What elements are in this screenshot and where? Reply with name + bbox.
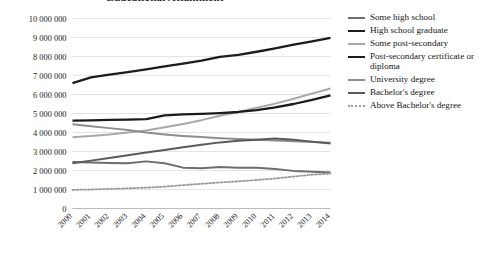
y-tick-label: 1 000 000 [33,186,67,195]
x-tick-label: 2000 [56,212,74,230]
legend-item-label: Some high school [370,12,435,22]
legend-item[interactable]: Bachelor's degree [348,87,490,98]
legend-item-label: Some post-secondary [370,38,448,48]
legend-swatch-icon [348,38,365,49]
legend-item-label: University degree [370,74,435,84]
legend-swatch-icon [348,87,365,98]
x-tick-label: 2001 [74,212,92,230]
series-line [73,174,331,190]
y-tick-label: 6 000 000 [33,91,67,100]
legend-item-label: High school graduate [370,25,448,35]
series-line [73,38,331,83]
y-tick-label: 4 000 000 [33,129,67,138]
x-tick-label: 2007 [185,212,203,230]
chart-container: Educational Attainment 01 000 0002 000 0… [0,0,490,263]
y-tick-label: 8 000 000 [33,53,67,62]
x-tick-label: 2008 [203,212,221,230]
legend-swatch-icon [348,100,365,111]
legend-swatch-icon [348,51,365,62]
legend-item[interactable]: Some post-secondary [348,38,490,49]
legend-item-label: Post-secondary certificate or diploma [370,51,488,72]
x-tick-label: 2002 [93,212,111,230]
series-line [73,139,331,164]
legend-item[interactable]: High school graduate [348,25,490,36]
y-tick-label: 10 000 000 [29,15,67,24]
legend-item[interactable]: Some high school [348,12,490,23]
legend-item-label: Bachelor's degree [370,87,435,97]
legend-item-label: Above Bachelor's degree [370,100,461,110]
x-tick-label: 2011 [259,212,277,230]
legend-item[interactable]: Post-secondary certificate or diploma [348,51,490,72]
legend-item[interactable]: University degree [348,74,490,85]
x-tick-label: 2009 [222,212,240,230]
y-axis-tick-labels: 01 000 0002 000 0003 000 0004 000 0005 0… [29,15,67,214]
legend-item[interactable]: Above Bachelor's degree [348,100,490,111]
y-tick-label: 7 000 000 [33,72,67,81]
chart-svg: 01 000 0002 000 0003 000 0004 000 0005 0… [0,0,345,263]
y-tick-label: 5 000 000 [33,110,67,119]
chart-legend: Some high schoolHigh school graduateSome… [348,12,490,113]
x-tick-label: 2005 [148,212,166,230]
x-axis-tick-labels: 2000200120022003200420052006200720082009… [56,212,332,230]
legend-swatch-icon [348,25,365,36]
x-tick-label: 2014 [314,212,332,230]
plot-area: 01 000 0002 000 0003 000 0004 000 0005 0… [0,0,345,263]
y-tick-label: 9 000 000 [33,34,67,43]
x-tick-label: 2004 [130,212,148,230]
y-tick-label: 3 000 000 [33,148,67,157]
x-tick-label: 2012 [277,212,295,230]
series-lines [73,38,331,190]
legend-swatch-icon [348,74,365,85]
y-tick-label: 2 000 000 [33,167,67,176]
legend-swatch-icon [348,12,365,23]
x-tick-label: 2013 [296,212,314,230]
x-tick-label: 2003 [111,212,129,230]
x-tick-label: 2010 [240,212,258,230]
x-tick-label: 2006 [167,212,185,230]
